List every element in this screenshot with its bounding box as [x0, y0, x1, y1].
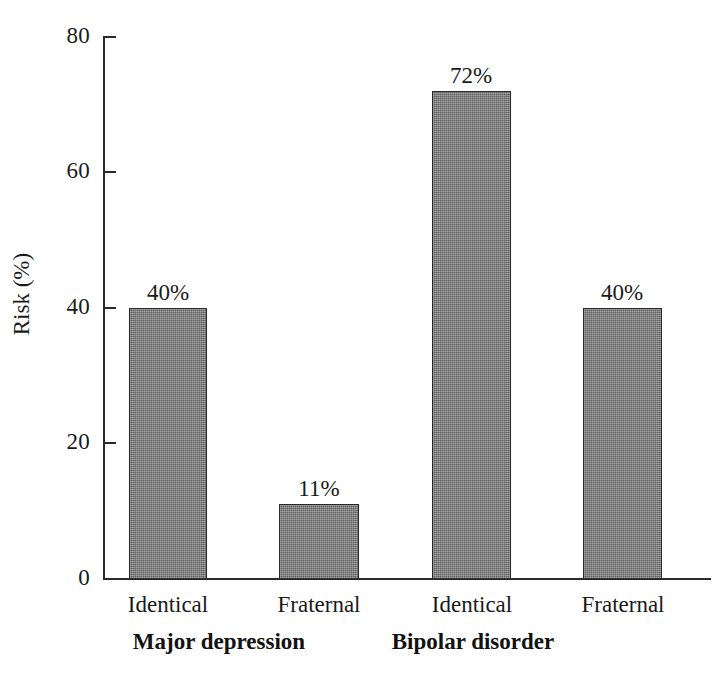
- bar-value-major-depression-fraternal: 11%: [270, 477, 368, 500]
- x-group-label-major-depression: Major depression: [84, 629, 354, 655]
- x-group-label-bipolar-disorder: Bipolar disorder: [338, 629, 608, 655]
- y-tick-label-20: 20: [44, 430, 90, 453]
- x-category-label-major-fraternal: Fraternal: [259, 592, 379, 618]
- x-category-label-major-identical: Identical: [108, 592, 228, 618]
- bar-value-major-depression-identical: 40%: [119, 281, 217, 304]
- y-axis-line: [103, 36, 105, 580]
- y-tick-mark-20: [105, 442, 116, 444]
- y-tick-label-80: 80: [44, 24, 90, 47]
- x-category-label-bipolar-identical: Identical: [412, 592, 532, 618]
- bar-value-bipolar-disorder-fraternal: 40%: [573, 281, 671, 304]
- y-tick-label-40: 40: [44, 295, 90, 318]
- x-category-label-bipolar-fraternal: Fraternal: [563, 592, 683, 618]
- bar-bipolar-disorder-identical: [432, 91, 511, 579]
- y-tick-mark-80: [105, 36, 116, 38]
- bar-major-depression-identical: [129, 308, 207, 579]
- bar-bipolar-disorder-fraternal: [583, 308, 662, 579]
- y-tick-label-60: 60: [44, 159, 90, 182]
- y-tick-mark-40: [105, 307, 116, 309]
- y-axis-title: Risk (%): [10, 234, 34, 354]
- y-tick-mark-60: [105, 171, 116, 173]
- bar-major-depression-fraternal: [279, 504, 359, 579]
- bar-chart-figure: Risk (%) 80 60 40 20 0 40% 11% 72% 40% I…: [0, 0, 723, 679]
- bar-value-bipolar-disorder-identical: 72%: [422, 64, 520, 87]
- y-tick-label-0: 0: [44, 566, 90, 589]
